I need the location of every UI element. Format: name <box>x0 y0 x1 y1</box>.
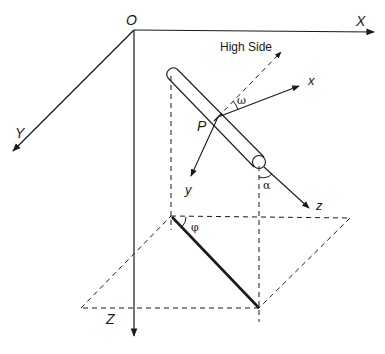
local-y-label: y <box>184 182 193 197</box>
local-x-axis <box>218 86 299 117</box>
local-x-label: x <box>307 73 315 88</box>
point-p-label: P <box>197 118 207 134</box>
origin-label: O <box>126 12 137 28</box>
projection-lines <box>171 76 259 322</box>
azimuth-angle-label: φ <box>191 221 199 234</box>
inclination-angle-label: α <box>263 179 271 192</box>
global-y-label: Y <box>15 125 26 141</box>
global-x-label: X <box>355 13 366 29</box>
high-side-line <box>218 52 281 117</box>
diagram-canvas: O X Y Z High Side P x y z ω α φ <box>0 0 385 354</box>
inclination-arc <box>259 174 272 178</box>
high-side-label: High Side <box>220 40 272 54</box>
global-z-label: Z <box>105 311 115 327</box>
global-y-axis <box>13 30 134 151</box>
rod-projection <box>172 217 259 308</box>
local-z-axis <box>264 167 309 208</box>
global-x-axis <box>134 30 374 32</box>
local-z-label: z <box>315 198 323 213</box>
toolface-angle-label: ω <box>237 94 246 107</box>
azimuth-arc <box>182 217 186 227</box>
rod-cylinder <box>167 68 268 171</box>
